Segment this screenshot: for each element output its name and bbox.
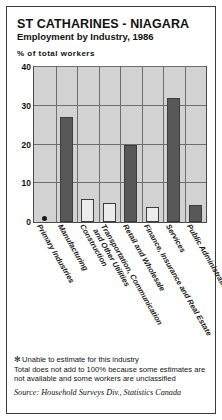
bar — [124, 145, 137, 223]
footnote-star-text: Unable to estimate for this industry — [22, 355, 139, 365]
source-line: Source: Household Surveys Div., Statisti… — [14, 388, 210, 398]
category-divider — [77, 67, 78, 222]
plot-area — [33, 66, 207, 223]
category-divider — [142, 67, 143, 222]
category-divider — [120, 67, 121, 222]
bar — [189, 205, 202, 222]
category-divider — [185, 67, 186, 222]
bar — [60, 117, 73, 222]
bar — [103, 203, 116, 222]
footnote-star-row: ✻ Unable to estimate for this industry — [14, 355, 210, 365]
no-data-marker — [42, 216, 47, 221]
category-divider — [99, 67, 100, 222]
category-divider — [56, 67, 57, 222]
category-divider — [163, 67, 164, 222]
bar — [167, 98, 180, 222]
x-axis-category-labels: Primary IndustriesManufacturingConstruct… — [33, 223, 207, 343]
bar — [81, 199, 94, 222]
chart-figure: ST CATHARINES - NIAGARA Employment by In… — [0, 0, 222, 420]
asterisk-icon: ✻ — [14, 355, 22, 365]
bar — [146, 207, 159, 223]
footnote-line-2: Total does not add to 100% because some … — [14, 365, 210, 375]
footnote-line-3: not available and some workers are uncla… — [14, 374, 210, 384]
footnotes: ✻ Unable to estimate for this industry T… — [14, 355, 210, 398]
x-tick-label: Services — [163, 223, 186, 254]
